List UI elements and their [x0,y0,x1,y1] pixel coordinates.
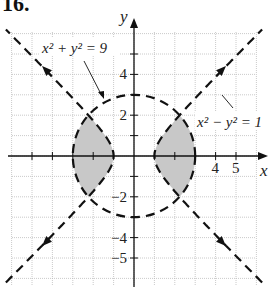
x-axis-arrow-icon [258,152,268,160]
y-tick-label: −2 [111,189,127,205]
y-tick-label: −5 [111,250,127,266]
graph: 4542−2−4−5xyx² + y² = 9x² − y² = 1 [0,0,272,290]
hyperbola-equation-label: x² − y² = 1 [196,114,262,130]
x-tick-label: 5 [232,160,240,176]
y-axis-arrow-icon [130,18,138,28]
x-axis-label: x [259,161,268,180]
y-tick-label: −4 [111,230,127,246]
circle-equation-label: x² + y² = 9 [41,40,108,56]
y-tick-label: 2 [120,107,128,123]
y-tick-label: 4 [120,66,128,82]
x-tick-label: 4 [212,160,220,176]
hyperbola-label-pointer [222,95,233,108]
y-axis-label: y [118,7,128,26]
